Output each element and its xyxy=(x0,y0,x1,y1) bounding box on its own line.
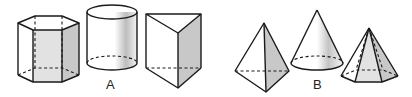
square-pyramid xyxy=(235,23,289,92)
triangular-prism xyxy=(146,14,201,88)
cylinder xyxy=(87,5,137,70)
group-label-b: B xyxy=(313,77,322,92)
group-label-a: A xyxy=(106,77,115,92)
solids-diagram xyxy=(0,0,412,97)
hexagonal-prism xyxy=(18,16,79,82)
cone xyxy=(291,10,343,70)
hexagonal-pyramid xyxy=(341,28,398,82)
